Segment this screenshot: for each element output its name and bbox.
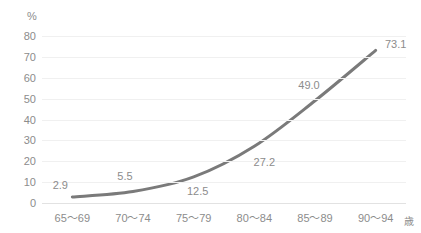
data-point-label-5: 73.1 (385, 38, 406, 50)
data-point-labels: 2.95.512.527.249.073.1 (0, 0, 421, 233)
data-point-label-4: 49.0 (298, 79, 319, 91)
data-point-label-1: 5.5 (117, 170, 132, 182)
data-point-label-0: 2.9 (53, 179, 68, 191)
data-point-label-2: 12.5 (187, 185, 208, 197)
data-point-label-3: 27.2 (254, 156, 275, 168)
line-chart: % 80706050403020100 65～6970～7475～7980～84… (0, 0, 421, 233)
